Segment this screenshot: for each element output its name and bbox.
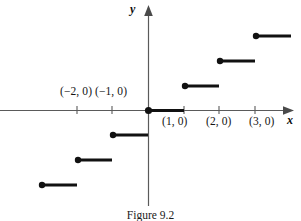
x-axis-label: x [287,114,293,126]
closed-endpoint-dot-1 [182,83,188,89]
point-label-2-0: (2, 0) [206,116,232,128]
closed-endpoint-dot-minus-2 [75,157,81,163]
point-label-minus-2-0: (−2, 0) [60,86,92,98]
point-label-minus-1-0: (−1, 0) [95,86,127,98]
figure-caption: Figure 9.2 [0,209,301,221]
figure-greatest-integer-function: y x (−2, 0) (−1, 0) (1, 0) (2, 0) (3, 0)… [0,0,301,221]
closed-endpoint-dot-minus-3 [39,182,45,188]
closed-endpoint-dot-minus-1 [110,132,116,138]
y-axis-arrowhead [144,5,153,16]
point-label-3-0: (3, 0) [249,116,275,128]
closed-endpoint-dot-3 [253,33,259,39]
step-function-plot [0,0,301,221]
closed-endpoint-dot-2 [217,58,223,64]
point-label-1-0: (1, 0) [162,116,188,128]
closed-endpoint-dot-origin [145,107,152,114]
y-axis-label: y [130,3,135,15]
y-axis [144,5,153,206]
